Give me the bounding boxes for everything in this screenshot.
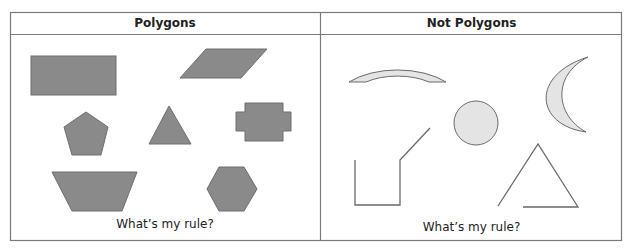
polygon-sort-chart (0, 0, 631, 250)
pentagon-shape (64, 112, 108, 155)
open-line-figure (355, 128, 430, 205)
cross-polygon-shape (236, 103, 291, 141)
open-triangle-figure (498, 144, 578, 207)
not-polygons-rule-caption: What’s my rule? (321, 220, 622, 234)
hexagon-shape (207, 167, 257, 211)
trapezoid-shape (52, 172, 137, 211)
parallelogram-shape (180, 49, 267, 78)
polygons-shapes (31, 49, 291, 211)
circle-shape (454, 101, 498, 145)
triangle-shape (149, 106, 191, 144)
arch-shape (349, 70, 446, 82)
polygons-rule-caption: What’s my rule? (10, 217, 320, 231)
rectangle-shape (31, 56, 116, 95)
non-polygon-shapes (349, 57, 588, 207)
not-polygons-header: Not Polygons (321, 12, 622, 34)
polygons-header: Polygons (10, 12, 320, 34)
crescent-shape (546, 57, 588, 132)
